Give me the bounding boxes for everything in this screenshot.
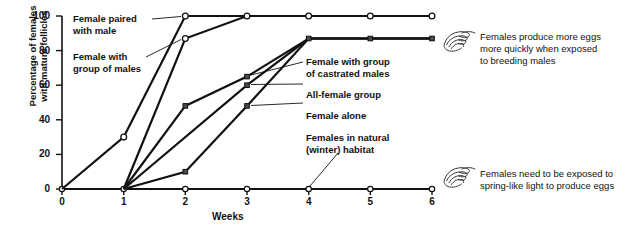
callout-female-alone: Female alone: [306, 110, 366, 122]
data-point: [368, 36, 373, 41]
callout-natural-habitat-line2: (winter) habitat: [306, 144, 374, 156]
data-point: [306, 13, 312, 19]
x-axis-title: Weeks: [212, 211, 244, 222]
annotation-top-line1: Females produce more eggs: [480, 31, 601, 43]
callout-female-paired-with-male-line1: Female paired: [73, 13, 137, 25]
leader-female-alone: [251, 103, 303, 106]
leader-all-female-group: [251, 84, 303, 85]
data-point: [183, 186, 188, 191]
callout-female-paired-with-male-line2: with male: [73, 25, 116, 37]
data-point: [245, 74, 250, 79]
leader-group-of-males: [146, 40, 181, 58]
annotation-bottom-line2: spring-like light to produce eggs: [480, 180, 614, 192]
data-point: [245, 83, 250, 88]
data-point: [367, 13, 373, 19]
x-tick-label-1: 1: [114, 196, 134, 207]
data-point: [429, 13, 435, 19]
leader-paired-with-male: [152, 17, 181, 20]
chart-figure: Percentage of femaleswith mature follicl…: [0, 0, 630, 230]
y-tick-label-0: 0: [18, 183, 50, 194]
callout-natural-habitat-line1: Females in natural: [306, 132, 389, 144]
x-tick-label-0: 0: [52, 196, 72, 207]
data-point: [182, 13, 188, 19]
y-tick-label-100: 100: [18, 10, 50, 21]
x-tick-label-4: 4: [299, 196, 319, 207]
annotation-top-line2: more quickly when exposed: [480, 43, 597, 55]
data-point: [121, 134, 127, 140]
y-tick-label-40: 40: [18, 114, 50, 125]
data-point: [183, 169, 188, 174]
data-point: [183, 104, 188, 109]
x-tick-label-2: 2: [175, 196, 195, 207]
callout-female-with-castrated-males-line1: Female with group: [306, 56, 390, 68]
leader-natural-habitat: [310, 153, 338, 186]
annotation-top-line3: to breeding males: [480, 55, 556, 67]
data-point: [368, 186, 373, 191]
pointing-hand-icon-top: [444, 32, 475, 52]
callout-female-with-castrated-males-line2: of castrated males: [306, 68, 389, 80]
x-tick-label-3: 3: [237, 196, 257, 207]
data-point: [244, 13, 250, 19]
x-tick-label-5: 5: [360, 196, 380, 207]
callout-leader-lines: [146, 17, 338, 187]
series-natural-winter-habitat: [59, 186, 434, 191]
data-point: [306, 186, 311, 191]
callout-all-female-group: All-female group: [306, 89, 381, 101]
callout-female-with-group-of-males-line1: Female with: [73, 51, 127, 63]
callout-female-with-group-of-males-line2: group of males: [73, 63, 141, 75]
data-point: [244, 186, 249, 191]
data-point: [245, 104, 250, 109]
data-point: [306, 36, 311, 41]
y-tick-label-20: 20: [18, 148, 50, 159]
y-tick-label-60: 60: [18, 79, 50, 90]
series-female-with-group-of-males: [124, 16, 432, 189]
annotation-bottom-line1: Females need to be exposed to: [480, 168, 613, 180]
x-tick-label-6: 6: [422, 196, 442, 207]
pointing-hand-icon-bottom: [444, 168, 475, 188]
data-point: [430, 36, 435, 41]
y-tick-label-80: 80: [18, 45, 50, 56]
data-point: [429, 186, 434, 191]
data-point: [182, 36, 188, 42]
